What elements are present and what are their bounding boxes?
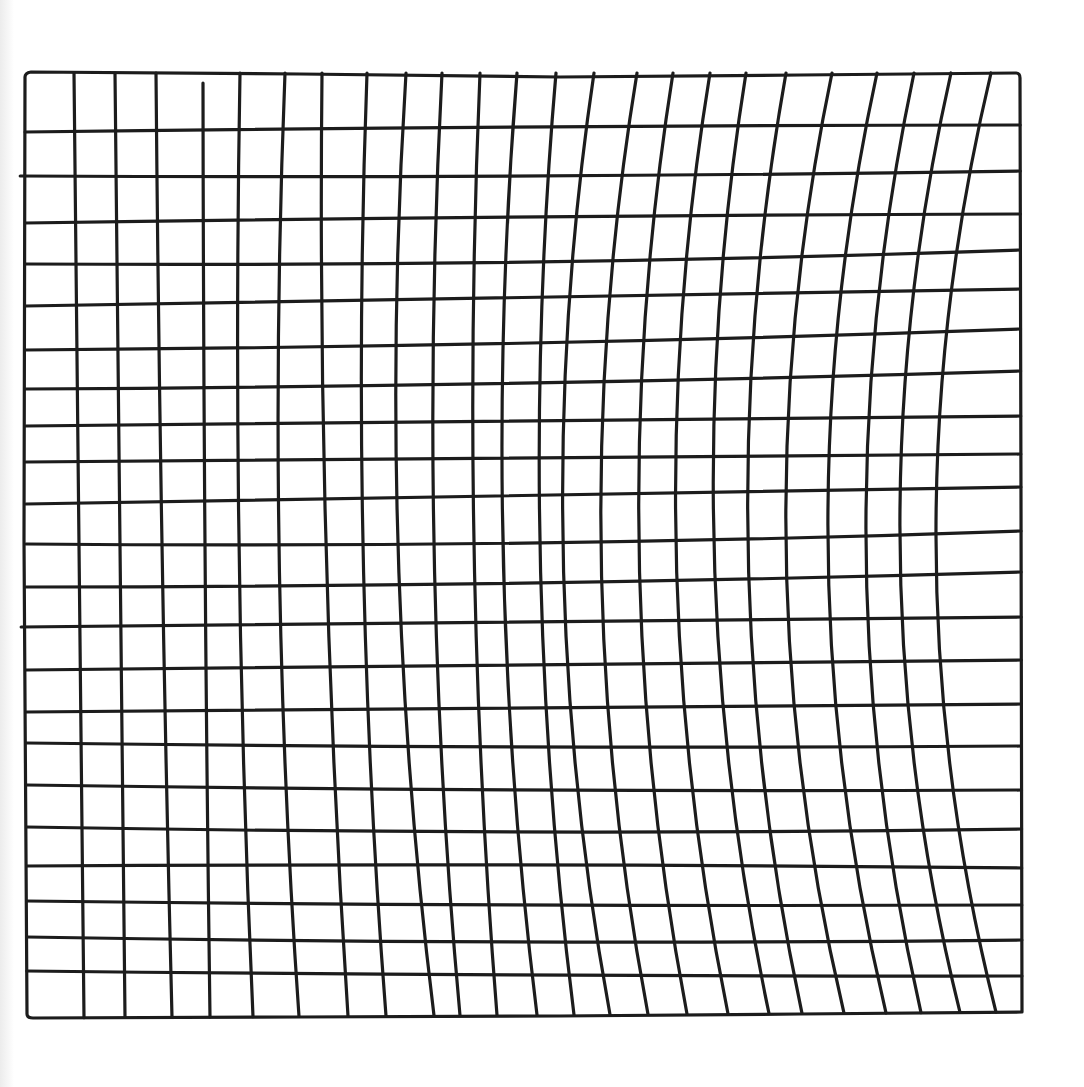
horizontal-grid-line: [27, 865, 1022, 868]
hand-drawn-grid: [0, 0, 1084, 1087]
horizontal-grid-line: [27, 785, 1022, 791]
horizontal-grid-line: [26, 572, 1021, 587]
horizontal-grid-line: [26, 416, 1021, 426]
horizontal-grid-line: [20, 171, 1020, 177]
horizontal-grid-line: [25, 214, 1020, 223]
horizontal-grid-line: [25, 125, 1020, 132]
horizontal-grid-line: [26, 487, 1021, 504]
vertical-grid-line: [639, 73, 687, 1014]
horizontal-grid-line: [25, 250, 1020, 264]
horizontal-grid-line: [27, 971, 1022, 976]
horizontal-lines: [20, 125, 1022, 976]
horizontal-grid-line: [26, 743, 1021, 747]
horizontal-grid-line: [26, 329, 1021, 350]
horizontal-grid-line: [26, 531, 1021, 545]
horizontal-grid-line: [26, 454, 1021, 462]
horizontal-grid-line: [21, 617, 1021, 627]
vertical-grid-line: [203, 83, 210, 1017]
horizontal-grid-line: [27, 937, 1022, 942]
horizontal-grid-line: [27, 827, 1022, 832]
vertical-grid-line: [601, 73, 648, 1014]
horizontal-grid-line: [25, 289, 1020, 306]
